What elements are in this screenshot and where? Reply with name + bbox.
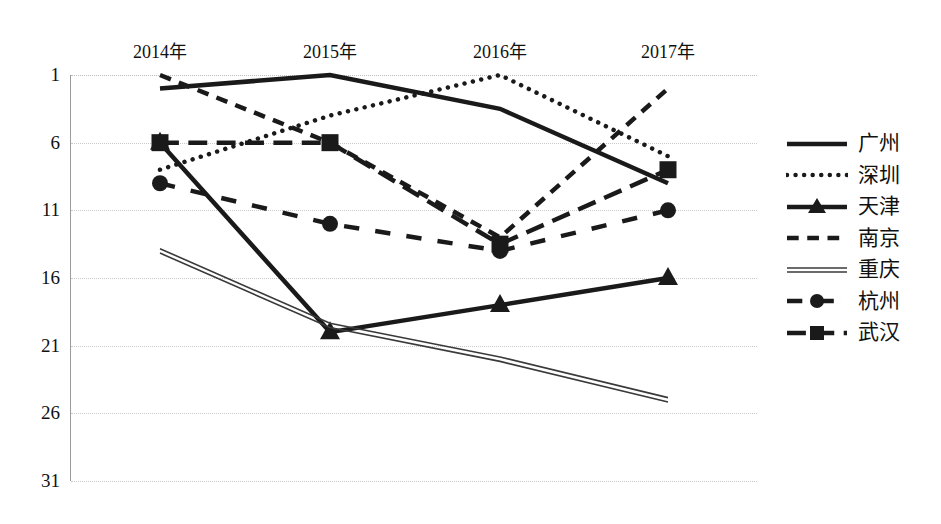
line-solid-triangle-swatch xyxy=(786,196,848,218)
line-solid-swatch xyxy=(786,133,848,155)
y-axis: 161116212631 xyxy=(12,0,60,524)
x-tick-label: 2014年 xyxy=(133,43,187,61)
y-tick-label: 1 xyxy=(18,65,60,84)
series-广州 xyxy=(160,75,668,183)
y-tick-label: 11 xyxy=(18,200,60,219)
series-layer xyxy=(71,75,757,481)
y-tick-label: 26 xyxy=(18,403,60,422)
series-杭州 xyxy=(152,175,676,259)
y-tick-label: 31 xyxy=(18,471,60,490)
series-重庆 xyxy=(160,249,668,402)
y-tick-label: 16 xyxy=(18,268,60,287)
line-dashdot-square-swatch xyxy=(786,322,848,344)
legend-item-重庆[interactable]: 重庆 xyxy=(786,254,936,286)
chart-legend: 广州深圳天津南京重庆杭州武汉 xyxy=(786,128,936,349)
line-thin-double-swatch xyxy=(786,259,848,281)
legend-label: 重庆 xyxy=(858,259,900,280)
gridline xyxy=(71,481,757,482)
legend-item-南京[interactable]: 南京 xyxy=(786,223,936,255)
data-point-marker xyxy=(492,236,509,253)
series-南京 xyxy=(160,75,668,237)
legend-label: 杭州 xyxy=(858,291,900,312)
series-line xyxy=(160,75,668,237)
legend-label: 武汉 xyxy=(858,322,900,343)
legend-label: 广州 xyxy=(858,133,900,154)
legend-label: 天津 xyxy=(858,196,900,217)
data-point-marker xyxy=(658,267,678,285)
x-tick-label: 2016年 xyxy=(473,43,527,61)
plot-area xyxy=(71,75,757,481)
data-point-marker xyxy=(660,161,677,178)
x-tick-label: 2015年 xyxy=(303,43,357,61)
data-point-marker xyxy=(152,134,169,151)
legend-item-杭州[interactable]: 杭州 xyxy=(786,286,936,318)
series-深圳 xyxy=(160,75,668,170)
line-dashed-swatch xyxy=(786,227,848,249)
legend-item-武汉[interactable]: 武汉 xyxy=(786,317,936,349)
legend-item-广州[interactable]: 广州 xyxy=(786,128,936,160)
x-axis: 2014年2015年2016年2017年 xyxy=(71,13,757,43)
x-tick-label: 2017年 xyxy=(641,43,695,61)
series-line xyxy=(160,75,668,183)
series-line xyxy=(160,75,668,170)
series-line xyxy=(160,249,668,398)
y-tick-label: 21 xyxy=(18,336,60,355)
y-tick-label: 6 xyxy=(18,133,60,152)
line-dotted-swatch xyxy=(786,164,848,186)
rank-line-chart: 161116212631 2014年2015年2016年2017年 广州深圳天津… xyxy=(0,0,941,524)
data-point-marker xyxy=(322,216,338,232)
data-point-marker xyxy=(322,134,339,151)
legend-item-天津[interactable]: 天津 xyxy=(786,191,936,223)
data-point-marker xyxy=(660,202,676,218)
legend-label: 深圳 xyxy=(858,165,900,186)
line-dashdot-circle-swatch xyxy=(786,290,848,312)
legend-item-深圳[interactable]: 深圳 xyxy=(786,160,936,192)
data-point-marker xyxy=(152,175,168,191)
legend-label: 南京 xyxy=(858,228,900,249)
